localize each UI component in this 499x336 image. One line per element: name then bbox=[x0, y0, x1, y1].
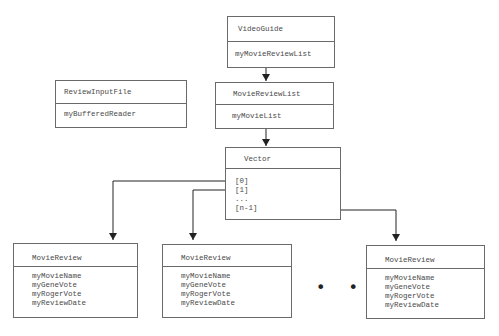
field: myMovieName bbox=[32, 272, 82, 280]
field: myRogerVote bbox=[181, 290, 231, 298]
field: myGeneVote bbox=[181, 281, 226, 289]
field: myReviewDate bbox=[32, 299, 86, 307]
field: myBufferedReader bbox=[64, 110, 136, 118]
class-name: MovieReview bbox=[385, 256, 435, 264]
field: myMovieReviewList bbox=[235, 50, 312, 58]
class-name: MovieReview bbox=[181, 254, 231, 262]
vector-elements: [0] [1] ... [n-1] bbox=[226, 169, 340, 219]
class-diagram: VideoGuide myMovieReviewList ReviewInput… bbox=[0, 0, 499, 336]
class-fields: myMovieList bbox=[216, 105, 333, 128]
class-box-vector: Vector [0] [1] ... [n-1] bbox=[225, 147, 341, 220]
class-box-videoguide: VideoGuide myMovieReviewList bbox=[227, 16, 335, 68]
field: myMovieList bbox=[232, 112, 282, 120]
class-name: MovieReview bbox=[32, 254, 82, 262]
class-name: MovieReviewList bbox=[233, 90, 301, 98]
class-title-section: MovieReview bbox=[14, 244, 137, 267]
field: myRogerVote bbox=[32, 290, 82, 298]
vector-element-1: [1] bbox=[235, 186, 249, 194]
field: myGeneVote bbox=[385, 283, 430, 291]
class-name: ReviewInputFile bbox=[64, 88, 132, 96]
class-title-section: VideoGuide bbox=[228, 17, 334, 42]
field: myRogerVote bbox=[385, 292, 435, 300]
class-title-section: MovieReview bbox=[367, 246, 484, 269]
class-box-moviereview-1: MovieReview myMovieName myGeneVote myRog… bbox=[13, 243, 138, 318]
class-box-reviewinputfile: ReviewInputFile myBufferedReader bbox=[55, 80, 187, 128]
class-fields: myMovieReviewList bbox=[228, 42, 334, 67]
class-fields: myMovieName myGeneVote myRogerVote myRev… bbox=[163, 267, 291, 317]
vector-element-ellipsis: ... bbox=[235, 195, 249, 203]
class-name: VideoGuide bbox=[238, 25, 283, 33]
vector-element-last: [n-1] bbox=[235, 204, 258, 212]
field: myMovieName bbox=[181, 272, 231, 280]
class-title-section: MovieReviewList bbox=[216, 83, 333, 105]
field: myMovieName bbox=[385, 274, 435, 282]
class-title-section: MovieReview bbox=[163, 245, 291, 267]
class-title-section: Vector bbox=[226, 148, 340, 169]
class-fields: myBufferedReader bbox=[56, 104, 186, 127]
field: myReviewDate bbox=[385, 301, 439, 309]
field: myReviewDate bbox=[181, 299, 235, 307]
class-box-moviereview-2: MovieReview myMovieName myGeneVote myRog… bbox=[162, 244, 292, 318]
class-box-moviereview-n: MovieReview myMovieName myGeneVote myRog… bbox=[366, 245, 485, 319]
class-name: Vector bbox=[244, 155, 271, 163]
class-fields: myMovieName myGeneVote myRogerVote myRev… bbox=[14, 267, 137, 317]
class-fields: myMovieName myGeneVote myRogerVote myRev… bbox=[367, 269, 484, 318]
vector-element-0: [0] bbox=[235, 177, 249, 185]
class-title-section: ReviewInputFile bbox=[56, 81, 186, 104]
field: myGeneVote bbox=[32, 281, 77, 289]
class-box-moviereviewlist: MovieReviewList myMovieList bbox=[215, 82, 334, 129]
